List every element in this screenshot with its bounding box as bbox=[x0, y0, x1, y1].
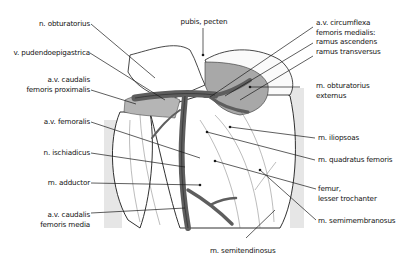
label-m-semitendinosus: m. semitendinosus bbox=[210, 246, 276, 256]
label-pubis-pecten: pubis, pecten bbox=[168, 17, 240, 27]
label-av-femoralis: a.v. femoralis bbox=[0, 117, 90, 127]
label-n-ischiadicus: n. ischiadicus bbox=[0, 148, 90, 158]
label-m-obturatorius-externus: m. obturatorius externus bbox=[316, 81, 369, 100]
label-m-quadratus-femoris: m. quadratus femoris bbox=[318, 155, 392, 165]
label-av-caudalis-femoris-media: a.v. caudalis femoris media bbox=[0, 210, 90, 229]
label-m-iliopsoas: m. iliopsoas bbox=[318, 133, 359, 143]
label-av-caudalis-femoris-proximalis: a.v. caudalis femoris proximalis bbox=[0, 75, 90, 94]
label-femur-lesser-trochanter: femur, lesser trochanter bbox=[318, 184, 377, 203]
label-m-adductor: m. adductor bbox=[0, 178, 90, 188]
label-n-obturatorius: n. obturatorius bbox=[0, 19, 90, 29]
label-av-circumflexa-femoris-medialis: a.v. circumflexa femoris medialis: ramus… bbox=[316, 18, 381, 56]
label-v-pudendoepigastrica: v. pudendoepigastrica bbox=[0, 48, 90, 58]
label-m-semimembranosus: m. semimembranosus bbox=[318, 216, 395, 226]
